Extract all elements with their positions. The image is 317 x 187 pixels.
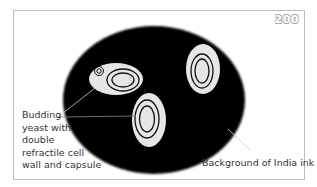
label-line: wall and capsule	[22, 159, 102, 172]
yeast-cell-right	[186, 44, 220, 94]
label-line: Budding	[22, 109, 102, 122]
label-line: yeast with	[22, 122, 102, 135]
yeast-cell-middle	[132, 93, 166, 147]
label-line: double	[22, 134, 102, 147]
label-line: refractile cell	[22, 147, 102, 160]
label-india-ink: Background of India ink	[202, 157, 314, 170]
yeast-cell-budding	[89, 63, 143, 95]
label-budding-yeast: Budding yeast with double refractile cel…	[22, 109, 102, 172]
